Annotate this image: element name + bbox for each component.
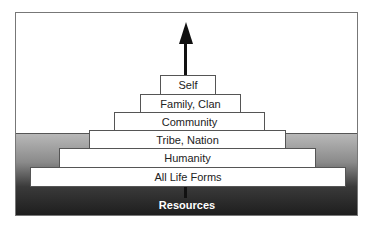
- tier-all-life-forms: All Life Forms: [30, 167, 346, 187]
- arrow-shaft: [184, 40, 187, 76]
- arrow-shaft-lower: [184, 186, 187, 198]
- tier-self: Self: [160, 75, 216, 95]
- tier-label: All Life Forms: [154, 171, 221, 183]
- tier-label: Family, Clan: [160, 98, 220, 110]
- tier-tribe-nation: Tribe, Nation: [89, 130, 286, 149]
- tier-humanity: Humanity: [59, 148, 316, 168]
- tier-label: Self: [179, 79, 198, 91]
- tier-label: Community: [162, 116, 218, 128]
- tier-family-clan: Family, Clan: [140, 94, 241, 114]
- up-arrow-icon: [179, 22, 193, 44]
- resources-label: Resources: [0, 199, 374, 211]
- tier-community: Community: [114, 112, 265, 132]
- tier-label: Tribe, Nation: [156, 134, 219, 146]
- tier-label: Humanity: [164, 152, 210, 164]
